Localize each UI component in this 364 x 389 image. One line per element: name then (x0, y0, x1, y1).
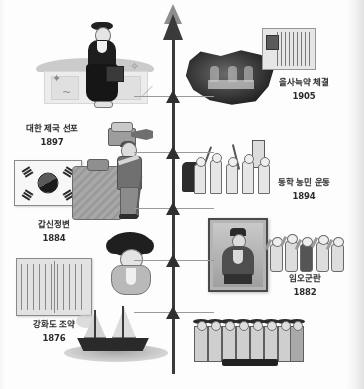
phonograph-lid (111, 122, 133, 132)
taeguk-circle (38, 173, 59, 194)
event-title: 을사늑약 체결 (256, 76, 352, 88)
event-label-imo-incident[interactable]: 임오군란 1882 (262, 272, 348, 299)
figure-in-hanbok-illustration (104, 232, 156, 296)
event-label-korean-empire-proclamation[interactable]: 대한 제국 선포 1897 (2, 122, 102, 149)
timeline-page: ✦ ~ ✧ ／ (0, 0, 364, 389)
page-left-edge (0, 0, 5, 389)
timeline-node-marker[interactable] (166, 202, 180, 215)
person-shape (228, 66, 237, 82)
event-label-gapsin-coup[interactable]: 갑신정변 1884 (6, 218, 102, 245)
event-title: 동학 농민 운동 (256, 176, 352, 188)
event-title: 강화도 조약 (6, 318, 102, 330)
eulsa-treaty-document (262, 28, 316, 70)
woman-in-hanbok-illustration (82, 22, 122, 108)
sail-shape (112, 308, 136, 338)
person-shape (210, 66, 219, 82)
marcher-shape (194, 164, 206, 194)
person-shape (244, 66, 253, 82)
group-foreground-shape (222, 359, 278, 366)
decorative-mark-icon: ~ (62, 86, 71, 99)
decorative-mark-icon: ✦ (52, 72, 61, 85)
dress-shape (111, 265, 151, 295)
mast-shape (122, 306, 124, 340)
event-year: 1894 (256, 190, 352, 202)
group-figure-shape (264, 326, 278, 362)
event-year: 1882 (262, 286, 348, 298)
cheering-figure-shape (331, 244, 344, 272)
group-photograph-illustration (192, 310, 304, 366)
marcher-shape (242, 161, 254, 194)
trigram-icon (22, 189, 34, 201)
cheering-figure-shape (300, 244, 313, 272)
timeline-node-marker[interactable] (166, 146, 180, 159)
event-title: 대한 제국 선포 (2, 122, 102, 134)
group-figure-shape (250, 326, 264, 362)
timeline-node-marker[interactable] (166, 90, 180, 103)
trigram-icon (22, 166, 34, 178)
page-right-edge (346, 0, 364, 389)
group-figure-shape (208, 326, 222, 362)
event-year: 1905 (256, 90, 352, 102)
event-label-eulsa-treaty[interactable]: 을사늑약 체결 1905 (256, 76, 352, 103)
chair-shape (224, 274, 252, 284)
event-label-ganghwa-treaty[interactable]: 강화도 조약 1876 (6, 318, 102, 345)
document-text-columns (277, 32, 312, 66)
boots-shape (119, 214, 138, 219)
event-title: 갑신정변 (6, 218, 102, 230)
event-year: 1876 (6, 332, 102, 344)
timeline-axis (172, 18, 175, 374)
cheering-crowd-illustration (268, 222, 348, 274)
shoes-shape (94, 101, 113, 108)
event-label-donghak-peasant-revolution[interactable]: 동학 농민 운동 1894 (256, 176, 352, 203)
robe-shape (222, 246, 254, 276)
marcher-shape (210, 160, 222, 194)
cheering-figure-shape (270, 244, 283, 272)
group-figure-shape (222, 326, 236, 362)
event-title: 임오군란 (262, 272, 348, 284)
bag-shape (106, 66, 124, 82)
official-portrait-framed (208, 218, 268, 292)
event-year: 1884 (6, 232, 102, 244)
timeline-node-marker[interactable] (166, 306, 180, 319)
group-figure-shape (194, 326, 208, 362)
group-figure-shape (236, 326, 250, 362)
group-figure-shape (290, 326, 304, 362)
collar-shape (97, 41, 107, 53)
event-year: 1897 (2, 136, 102, 148)
marcher-shape (226, 164, 238, 194)
timeline-node-marker[interactable] (166, 254, 180, 267)
decorative-mark-icon: ✧ (130, 60, 139, 73)
